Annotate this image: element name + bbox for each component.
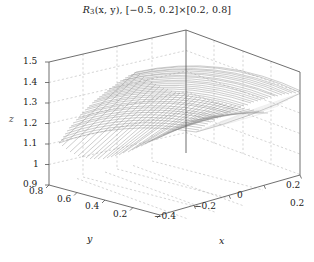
z-tick-1: 1 [33,160,39,169]
z-tick-1.1: 1.1 [23,139,37,148]
x-tick--0.2: −0.2 [194,202,216,211]
z-tick-1.3: 1.3 [23,98,37,107]
y-tick-0.2: 0.2 [113,210,127,219]
x-tick--0.4: −0.4 [154,212,176,221]
y-axis-label: y [87,234,92,244]
x-axis-label: x [219,236,224,246]
z-tick-1.2: 1.2 [23,119,37,128]
mesh-surface [59,66,303,159]
y-tick-0.4: 0.4 [85,202,99,211]
plot-canvas [0,0,314,262]
axis-edge-x [160,175,300,215]
z-tick-1.5: 1.5 [23,57,37,66]
figure-3d-surface-plot: R3(x, y), [−0.5, 0.2]×[0.2, 0.8] [0,0,314,262]
x-tick-0.2: 0.2 [286,181,300,190]
axis-edge-top-left [49,30,186,62]
y-tick-0.8: 0.8 [29,187,43,196]
z-tick-1.4: 1.4 [23,78,37,87]
y-tick-0.2-right: 0.2 [290,199,304,208]
z-axis-label: z [9,115,14,124]
x-tick-0: 0 [237,191,243,200]
y-tick-0.6: 0.6 [57,195,71,204]
